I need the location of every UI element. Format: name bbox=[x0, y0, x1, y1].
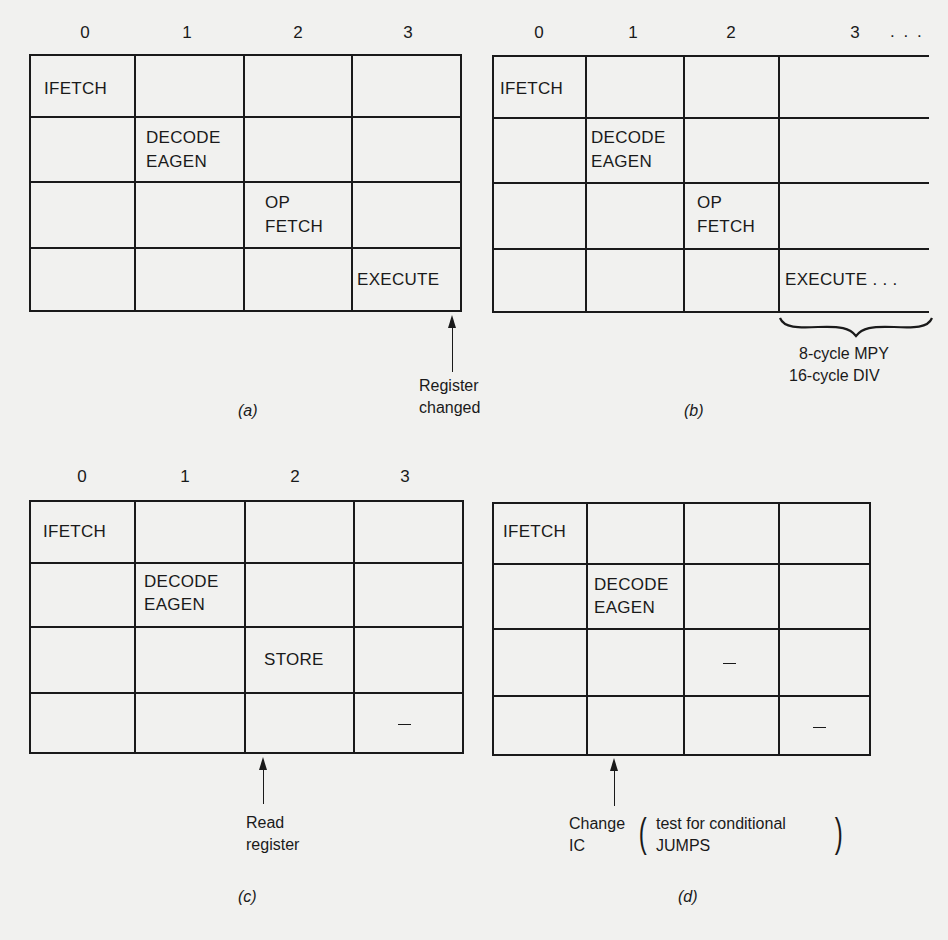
grid-line bbox=[134, 54, 136, 312]
grid-line bbox=[29, 692, 464, 694]
stage-execute-multicycle: EXECUTE . . . bbox=[785, 268, 898, 291]
grid-line bbox=[492, 311, 929, 313]
stage-fetch: FETCH bbox=[697, 215, 755, 238]
arrow-shaft bbox=[452, 326, 453, 372]
stage-decode: DECODE bbox=[594, 573, 669, 596]
cycle-header-2: 2 bbox=[290, 468, 299, 485]
grid-line bbox=[869, 502, 871, 756]
annotation-mpy: 8-cycle MPY bbox=[799, 343, 889, 365]
grid-line bbox=[462, 500, 464, 754]
cycle-header-1: 1 bbox=[180, 468, 189, 485]
stage-eagen: EAGEN bbox=[146, 150, 207, 173]
grid-line bbox=[29, 181, 462, 183]
stage-fetch: FETCH bbox=[265, 215, 323, 238]
annotation-conditional-jumps-1: test for conditional bbox=[656, 813, 786, 835]
cycle-header-0: 0 bbox=[80, 24, 89, 41]
stage-decode: DECODE bbox=[591, 126, 666, 149]
cycle-header-2: 2 bbox=[726, 24, 735, 41]
continuation-ellipsis: . . . bbox=[890, 22, 924, 42]
caption-b: (b) bbox=[684, 402, 704, 420]
grid-line bbox=[586, 502, 588, 756]
cycle-header-3: 3 bbox=[400, 468, 409, 485]
annotation-read-register-1: Read bbox=[246, 812, 284, 834]
annotation-change-ic-1: Change bbox=[569, 813, 625, 835]
cycle-header-3: 3 bbox=[850, 24, 859, 41]
grid-line bbox=[492, 55, 494, 313]
grid-line bbox=[29, 752, 464, 754]
grid-line bbox=[29, 54, 462, 56]
cycle-header-3: 3 bbox=[403, 24, 412, 41]
cycle-header-1: 1 bbox=[628, 24, 637, 41]
cycle-header-0: 0 bbox=[77, 468, 86, 485]
grid-line bbox=[683, 502, 685, 756]
stage-ifetch: IFETCH bbox=[503, 520, 566, 543]
stage-op: OP bbox=[265, 191, 290, 214]
cycle-header-1: 1 bbox=[182, 24, 191, 41]
grid-line bbox=[492, 628, 871, 630]
annotation-register-changed-2: changed bbox=[419, 397, 480, 419]
grid-line bbox=[134, 500, 136, 754]
grid-line bbox=[244, 500, 246, 754]
stage-op: OP bbox=[697, 191, 722, 214]
grid-line bbox=[492, 754, 871, 756]
idle-dash bbox=[723, 663, 736, 664]
grid-line bbox=[29, 247, 462, 249]
grid-line bbox=[29, 54, 31, 312]
grid-line bbox=[492, 248, 929, 250]
grid-line bbox=[492, 55, 929, 57]
grid-line bbox=[492, 695, 871, 697]
annotation-div: 16-cycle DIV bbox=[789, 365, 880, 387]
cycle-header-2: 2 bbox=[293, 24, 302, 41]
grid-line bbox=[29, 310, 462, 312]
grid-line bbox=[585, 55, 587, 313]
grid-line bbox=[29, 626, 464, 628]
grid-line bbox=[492, 117, 929, 119]
stage-ifetch: IFETCH bbox=[44, 77, 107, 100]
grid-line bbox=[460, 54, 462, 312]
idle-dash bbox=[813, 727, 826, 728]
open-paren: ( bbox=[639, 813, 647, 853]
grid-line bbox=[492, 502, 871, 504]
annotation-conditional-jumps-2: JUMPS bbox=[656, 835, 710, 857]
annotation-read-register-2: register bbox=[246, 834, 299, 856]
caption-a: (a) bbox=[238, 402, 258, 420]
caption-c: (c) bbox=[238, 888, 257, 906]
arrow-shaft bbox=[263, 768, 264, 804]
grid-line bbox=[29, 562, 464, 564]
grid-line bbox=[29, 500, 31, 754]
stage-decode: DECODE bbox=[144, 570, 219, 593]
caption-d: (d) bbox=[678, 888, 698, 906]
idle-dash bbox=[398, 724, 411, 725]
stage-store: STORE bbox=[264, 648, 324, 671]
grid-line bbox=[492, 182, 929, 184]
grid-line bbox=[243, 54, 245, 312]
annotation-change-ic-2: IC bbox=[569, 835, 585, 857]
grid-line bbox=[492, 502, 494, 756]
stage-decode: DECODE bbox=[146, 126, 221, 149]
grid-line bbox=[683, 55, 685, 313]
annotation-register-changed-1: Register bbox=[419, 375, 479, 397]
stage-eagen: EAGEN bbox=[594, 596, 655, 619]
grid-line bbox=[492, 563, 871, 565]
stage-ifetch: IFETCH bbox=[43, 520, 106, 543]
stage-execute: EXECUTE bbox=[357, 268, 439, 291]
grid-line bbox=[351, 54, 353, 312]
stage-eagen: EAGEN bbox=[591, 150, 652, 173]
stage-eagen: EAGEN bbox=[144, 593, 205, 616]
arrow-shaft bbox=[614, 769, 615, 806]
grid-line bbox=[778, 502, 780, 756]
grid-line bbox=[29, 500, 464, 502]
cycle-header-0: 0 bbox=[534, 24, 543, 41]
grid-line bbox=[778, 55, 780, 313]
grid-line bbox=[29, 116, 462, 118]
stage-ifetch: IFETCH bbox=[500, 77, 563, 100]
grid-line bbox=[353, 500, 355, 754]
brace-icon bbox=[778, 316, 934, 338]
close-paren: ) bbox=[835, 813, 843, 853]
